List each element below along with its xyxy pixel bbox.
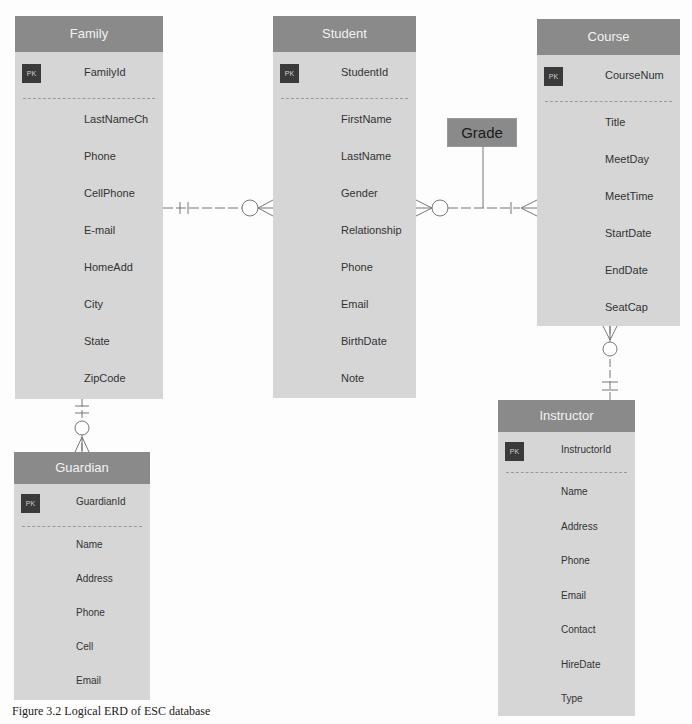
crowfoot-icon bbox=[416, 200, 432, 208]
crowfoot-icon bbox=[75, 437, 82, 452]
zero-circle-icon bbox=[242, 200, 258, 216]
relationship-course-instructor bbox=[602, 326, 618, 400]
relationship-lines bbox=[0, 0, 692, 724]
relationship-student-course bbox=[416, 146, 537, 216]
relationship-family-student bbox=[163, 200, 273, 216]
relationship-family-guardian bbox=[75, 399, 89, 452]
figure-caption: Figure 3.2 Logical ERD of ESC database bbox=[12, 704, 210, 719]
crowfoot-icon bbox=[521, 200, 537, 208]
crowfoot-icon bbox=[258, 200, 273, 208]
zero-circle-icon bbox=[432, 200, 448, 216]
zero-circle-icon bbox=[603, 342, 617, 356]
zero-circle-icon bbox=[75, 421, 89, 435]
crowfoot-icon bbox=[603, 326, 610, 340]
